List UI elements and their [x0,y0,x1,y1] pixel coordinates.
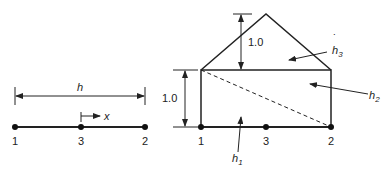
node-label-3: 3 [78,135,84,147]
top-height-label: 1.0 [248,36,263,48]
region-label-h1: h1 [232,152,243,167]
node-label-1: 1 [12,135,18,147]
h3-accent: ˙ [333,32,337,44]
region-label-h2: h2 [369,89,380,104]
leader-h2 [310,84,368,94]
node-3 [78,124,84,130]
node-label-2: 2 [142,135,148,147]
node-1 [12,124,18,130]
node-1 [198,124,204,130]
dimension-label-h: h [77,81,83,93]
region-label-h3: h3 [332,44,343,59]
node-label-3: 3 [263,135,269,147]
x-label: x [103,110,110,122]
node-label-1: 1 [198,135,204,147]
node-2 [142,124,148,130]
node-3 [263,124,269,130]
node-2 [328,124,334,130]
node-label-2: 2 [328,135,334,147]
leader-h3 [289,52,327,60]
left-height-label: 1.0 [162,92,177,104]
left-figure: h x 1 3 2 [12,81,148,147]
triangle-shape [201,14,331,70]
dashed-diagonal [201,70,331,127]
diagram-canvas: h x 1 3 2 1.0 1.0 1 3 [0,0,388,176]
leader-h1 [238,117,241,152]
right-figure: 1.0 1.0 1 3 2 h3 ˙ h2 h1 [162,14,380,167]
